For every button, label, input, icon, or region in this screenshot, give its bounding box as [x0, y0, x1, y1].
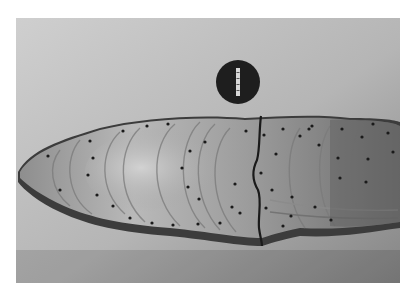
specimen-photograph: Grayscale photograph of a polished layer… [16, 18, 400, 283]
photo-canvas [16, 18, 400, 283]
label-disc [216, 60, 260, 104]
specimen-dark-region [330, 120, 400, 227]
photo-grain [16, 250, 400, 283]
